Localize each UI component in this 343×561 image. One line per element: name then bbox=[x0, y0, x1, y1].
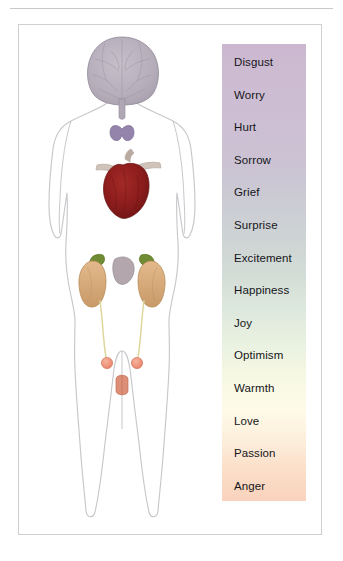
kidney-left-icon bbox=[79, 261, 106, 307]
emotion-label-list: Disgust Worry Hurt Sorrow Grief Surprise… bbox=[222, 44, 306, 501]
emotion-label-warmth: Warmth bbox=[234, 382, 274, 395]
brainstem bbox=[119, 99, 125, 119]
emotion-label-excitement: Excitement bbox=[234, 252, 292, 265]
human-body-diagram bbox=[27, 29, 217, 529]
anatomy-panel bbox=[19, 25, 219, 534]
ovary-right-icon bbox=[131, 357, 142, 368]
emotion-label-disgust: Disgust bbox=[234, 56, 273, 69]
emotion-gradient-scale: Disgust Worry Hurt Sorrow Grief Surprise… bbox=[222, 44, 306, 501]
emotion-label-sorrow: Sorrow bbox=[234, 154, 271, 167]
figure-card: Disgust Worry Hurt Sorrow Grief Surprise… bbox=[18, 24, 322, 535]
kidney-right-icon bbox=[138, 261, 165, 307]
emotion-label-worry: Worry bbox=[234, 89, 265, 102]
emotion-label-happiness: Happiness bbox=[234, 284, 289, 297]
brain-icon bbox=[88, 37, 159, 105]
emotion-label-surprise: Surprise bbox=[234, 219, 278, 232]
emotion-label-anger: Anger bbox=[234, 480, 265, 493]
emotion-label-hurt: Hurt bbox=[234, 121, 256, 134]
ovary-left-icon bbox=[101, 357, 112, 368]
brain-organ bbox=[88, 37, 159, 119]
emotion-label-optimism: Optimism bbox=[234, 349, 283, 362]
emotion-label-joy: Joy bbox=[234, 317, 252, 330]
emotion-label-passion: Passion bbox=[234, 447, 276, 460]
emotion-label-love: Love bbox=[234, 415, 259, 428]
emotion-label-grief: Grief bbox=[234, 186, 259, 199]
top-divider-rule bbox=[10, 8, 333, 9]
